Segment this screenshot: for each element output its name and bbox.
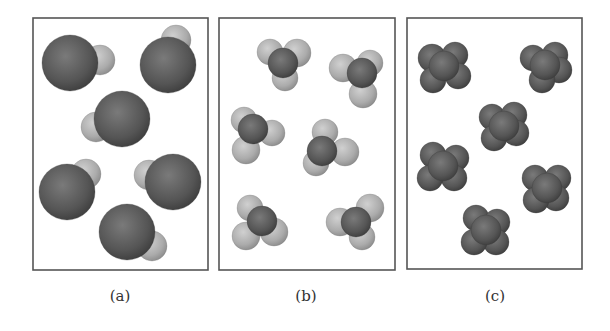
molecule-icon xyxy=(479,102,529,151)
dark-atom-icon xyxy=(532,173,562,203)
dark-atom-icon xyxy=(238,114,268,144)
dark-atom-icon xyxy=(428,151,458,181)
dark-atom-icon xyxy=(247,206,277,236)
molecule-icon xyxy=(461,205,510,255)
panel-a xyxy=(33,18,208,270)
panel-b xyxy=(219,18,395,270)
dark-atom-icon xyxy=(140,37,196,93)
panel-label-b: (b) xyxy=(295,287,316,305)
dark-atom-icon xyxy=(489,111,519,141)
dark-atom-icon xyxy=(429,51,459,81)
dark-atom-icon xyxy=(94,91,150,147)
panel-label-c: (c) xyxy=(485,287,505,305)
dark-atom-icon xyxy=(39,164,95,220)
dark-atom-icon xyxy=(42,35,98,91)
molecule-icon xyxy=(417,142,469,191)
dark-atom-icon xyxy=(268,48,298,78)
panel-c xyxy=(407,18,582,269)
dark-atom-icon xyxy=(471,215,501,245)
dark-atom-icon xyxy=(530,50,560,80)
dark-atom-icon xyxy=(145,154,201,210)
panel-label-a: (a) xyxy=(110,287,131,305)
dark-atom-icon xyxy=(99,204,155,260)
dark-atom-icon xyxy=(341,207,371,237)
molecule-icon xyxy=(418,42,471,93)
dark-atom-icon xyxy=(347,58,377,88)
molecule-icon xyxy=(522,165,571,213)
dark-atom-icon xyxy=(307,136,337,166)
molecule-figure xyxy=(0,0,610,331)
